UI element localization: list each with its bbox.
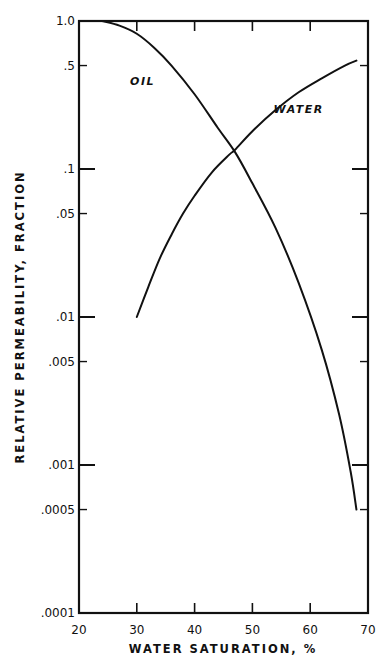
x-tick-label: 40 (187, 623, 202, 637)
oil-curve (102, 21, 356, 510)
oil-label: OIL (130, 75, 155, 88)
plot-frame (79, 21, 368, 613)
x-axis-ticks: 203040506070 (71, 21, 375, 637)
x-tick-label: 70 (360, 623, 375, 637)
series-lines (102, 21, 356, 510)
y-tick-label: 1.0 (56, 14, 75, 28)
water-curve (137, 61, 357, 317)
relative-permeability-chart: 203040506070 1.0.5.1.05.01.005.001.0005.… (0, 0, 387, 665)
y-tick-label: .5 (64, 59, 75, 73)
y-tick-label: .0005 (41, 503, 75, 517)
x-tick-label: 20 (71, 623, 86, 637)
y-tick-label: .005 (48, 355, 75, 369)
x-tick-label: 60 (303, 623, 318, 637)
x-tick-label: 30 (129, 623, 144, 637)
water-label: WATER (274, 103, 324, 116)
y-tick-label: .1 (64, 162, 75, 176)
y-tick-label: .01 (56, 310, 75, 324)
y-axis-title: RELATIVE PERMEABILITY, FRACTION (13, 170, 27, 463)
y-tick-label: .001 (48, 458, 75, 472)
x-tick-label: 50 (245, 623, 260, 637)
y-tick-label: .05 (56, 207, 75, 221)
y-tick-label: .0001 (41, 606, 75, 620)
x-axis-title: WATER SATURATION, % (129, 642, 318, 656)
